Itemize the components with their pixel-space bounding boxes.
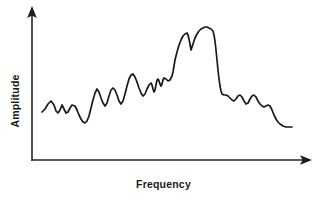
x-axis-label: Frequency (0, 178, 327, 190)
chart-canvas (0, 0, 327, 200)
spectrum-curve (42, 27, 292, 127)
spectrum-figure: Amplitude Frequency (0, 0, 327, 200)
y-axis-label: Amplitude (9, 56, 21, 146)
